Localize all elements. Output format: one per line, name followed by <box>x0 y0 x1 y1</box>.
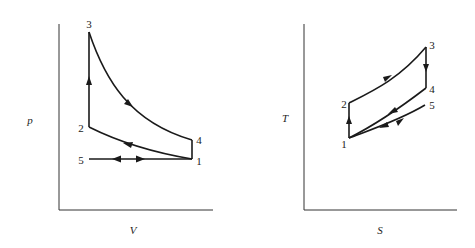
ts-arrow-up-icon <box>346 116 352 124</box>
ts-y-axis-label: T <box>282 113 288 124</box>
ts-process-4-1 <box>349 88 426 138</box>
ts-arrow-left-icon <box>388 107 398 114</box>
pv-y-axis-label: p <box>27 115 33 126</box>
pv-arrow-right-icon <box>136 156 145 163</box>
ts-process-1-5 <box>349 105 425 138</box>
ts-point-2-label: 2 <box>341 99 347 110</box>
ts-point-3-label: 3 <box>429 40 435 51</box>
pv-diagram <box>59 24 213 210</box>
ts-point-5-label: 5 <box>429 100 435 111</box>
pv-point-4-label: 4 <box>196 135 202 146</box>
pv-arrow-up-icon <box>86 76 92 85</box>
pv-point-3-label: 3 <box>86 19 92 30</box>
pv-point-1-label: 1 <box>196 156 202 167</box>
ts-arrow-down-icon <box>423 64 429 72</box>
pv-point-5-label: 5 <box>78 155 84 166</box>
ts-x-axis-label: S <box>377 225 383 236</box>
pv-arrow-left-icon <box>112 156 121 163</box>
pv-point-2-label: 2 <box>78 123 84 134</box>
ts-point-4-label: 4 <box>429 84 435 95</box>
ts-process-2-3 <box>349 47 426 103</box>
pv-arrow-left-icon <box>123 142 133 148</box>
pv-process-1-2 <box>89 127 192 159</box>
diagrams-canvas <box>0 0 475 248</box>
ts-diagram <box>304 24 457 210</box>
ts-point-1-label: 1 <box>341 139 347 150</box>
pv-process-3-4 <box>89 32 192 140</box>
pv-x-axis-label: V <box>130 225 137 236</box>
